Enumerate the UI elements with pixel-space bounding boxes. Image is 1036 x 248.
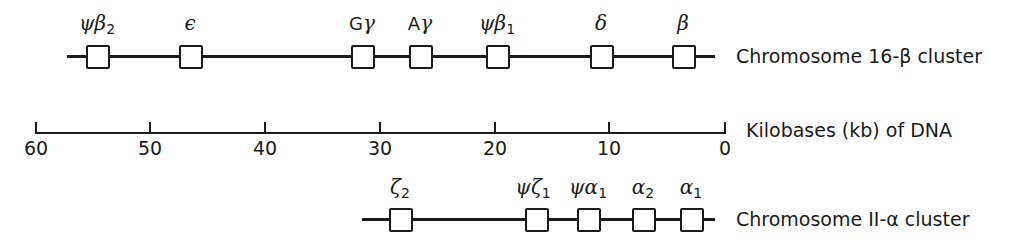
gene-box-psi-alpha1 bbox=[577, 208, 601, 232]
gene-label-beta: β bbox=[677, 12, 689, 40]
gene-box-a-gamma bbox=[409, 45, 433, 69]
axis-line bbox=[36, 132, 726, 134]
gene-box-alpha2 bbox=[632, 208, 656, 232]
gene-box-beta bbox=[672, 45, 696, 69]
tick-label-50: 50 bbox=[138, 138, 162, 158]
gene-label-alpha2: α2 bbox=[632, 176, 654, 204]
tick-30 bbox=[379, 122, 381, 134]
gene-label-epsilon: ϵ bbox=[184, 12, 195, 40]
axis-title: Kilobases (kb) of DNA bbox=[746, 119, 952, 141]
tick-0 bbox=[724, 122, 726, 134]
gene-label-psi-zeta1: ψζ1 bbox=[515, 176, 550, 204]
gene-label-delta: δ bbox=[595, 12, 607, 40]
gene-box-g-gamma bbox=[351, 45, 375, 69]
gene-box-delta bbox=[590, 45, 614, 69]
gene-label-a-gamma: Aγ bbox=[408, 12, 432, 40]
tick-label-0: 0 bbox=[719, 138, 731, 158]
gene-label-psi-beta1: ψβ1 bbox=[479, 12, 515, 40]
beta-cluster-dna-line bbox=[67, 55, 715, 58]
gene-box-alpha1 bbox=[680, 208, 704, 232]
gene-label-psi-beta2: ψβ2 bbox=[79, 12, 115, 40]
gene-box-epsilon bbox=[179, 45, 203, 69]
tick-label-60: 60 bbox=[24, 138, 48, 158]
gene-box-psi-beta2 bbox=[86, 45, 110, 69]
gene-box-psi-zeta1 bbox=[525, 208, 549, 232]
tick-60 bbox=[35, 122, 37, 134]
alpha-cluster-label: Chromosome II-α cluster bbox=[736, 208, 969, 230]
tick-label-20: 20 bbox=[483, 138, 507, 158]
tick-label-40: 40 bbox=[253, 138, 277, 158]
gene-label-zeta2: ζ2 bbox=[390, 176, 410, 204]
gene-box-psi-beta1 bbox=[486, 45, 510, 69]
tick-50 bbox=[149, 122, 151, 134]
tick-10 bbox=[608, 122, 610, 134]
tick-20 bbox=[494, 122, 496, 134]
gene-label-psi-alpha1: ψα1 bbox=[569, 176, 607, 204]
beta-cluster-label: Chromosome 16-β cluster bbox=[736, 45, 982, 67]
gene-label-g-gamma: Gγ bbox=[349, 12, 375, 40]
tick-40 bbox=[264, 122, 266, 134]
gene-box-zeta2 bbox=[389, 208, 413, 232]
gene-label-alpha1: α1 bbox=[680, 176, 702, 204]
tick-label-30: 30 bbox=[368, 138, 392, 158]
tick-label-10: 10 bbox=[597, 138, 621, 158]
